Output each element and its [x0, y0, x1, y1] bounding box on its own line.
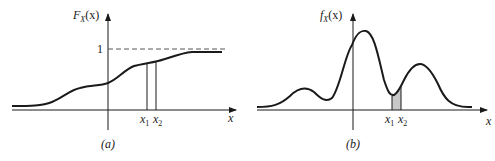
x2-label: x2	[152, 112, 162, 128]
x1-label: x1	[139, 112, 149, 128]
figure: FX(x) 1 x1 x2 x (a) fX(x) x1 x2 x (b)	[0, 0, 495, 161]
x-axis-label: x	[227, 111, 234, 125]
y-axis-label: FX(x)	[72, 8, 99, 24]
x2-label: x2	[397, 112, 407, 128]
x1-label: x1	[384, 112, 394, 128]
panel-b-pdf: fX(x) x1 x2 x (b)	[257, 8, 492, 151]
reference-label-one: 1	[97, 42, 103, 56]
pdf-curve	[257, 31, 472, 107]
y-axis-label: fX(x)	[320, 8, 342, 24]
shaded-area-x1-x2	[392, 87, 401, 110]
panel-label: (a)	[101, 137, 115, 151]
cdf-curve	[12, 52, 222, 106]
panel-a-cdf: FX(x) 1 x1 x2 x (a)	[12, 8, 236, 151]
x-axis-label: x	[485, 114, 492, 128]
panel-label: (b)	[346, 137, 360, 151]
